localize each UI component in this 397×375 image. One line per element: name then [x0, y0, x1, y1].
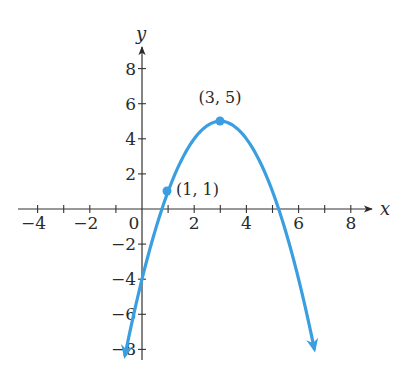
x-tick-label: 8	[345, 213, 356, 233]
vertex-point	[216, 117, 225, 126]
x-tick-label: −4	[21, 213, 46, 233]
x-tick-label: 0	[129, 213, 140, 233]
x-axis-label: x	[380, 198, 390, 219]
y-axis-label: y	[135, 23, 147, 44]
x-axis-tick-labels: −4−202468	[21, 213, 356, 233]
point-1-1	[163, 187, 172, 196]
y-tick-label: 2	[125, 164, 136, 184]
y-tick-label: 6	[125, 94, 136, 114]
y-tick-label: 4	[125, 129, 136, 149]
x-tick-label: −2	[73, 213, 98, 233]
parabola-graph: −4−202468 8642−2−4−6−8 x y (1, 1) (3, 5)	[0, 0, 397, 375]
point-label-1-1: (1, 1)	[176, 180, 219, 199]
parabola-curve	[125, 121, 314, 355]
y-tick-label: −2	[111, 234, 136, 254]
x-tick-label: 4	[241, 213, 252, 233]
x-tick-label: 2	[189, 213, 200, 233]
y-tick-label: 8	[125, 59, 136, 79]
y-tick-label: −4	[111, 269, 136, 289]
x-tick-label: 6	[293, 213, 304, 233]
vertex-label: (3, 5)	[198, 88, 241, 107]
curve-arrowheads	[121, 338, 318, 359]
